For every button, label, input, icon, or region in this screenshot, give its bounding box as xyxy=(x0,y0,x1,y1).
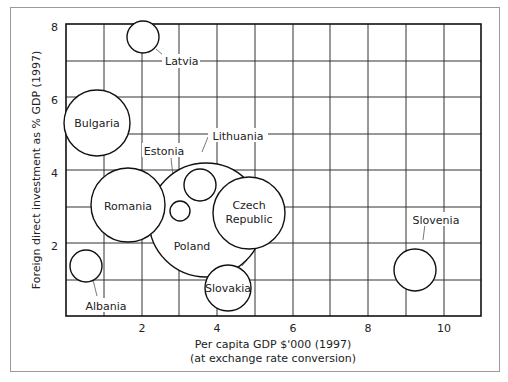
label-czech-line2: Republic xyxy=(225,213,272,226)
label-slovakia: Slovakia xyxy=(205,282,251,295)
x-axis-title: Per capita GDP $'000 (1997) xyxy=(195,338,352,351)
label-lithuania: Lithuania xyxy=(213,130,264,143)
label-latvia: Latvia xyxy=(165,55,199,68)
x-axis-subtitle: (at exchange rate conversion) xyxy=(190,352,356,365)
label-romania: Romania xyxy=(104,200,152,213)
label-slovenia: Slovenia xyxy=(413,214,460,227)
label-czech-line1: Czech xyxy=(232,199,265,212)
y-tick: 6 xyxy=(51,94,58,107)
label-estonia: Estonia xyxy=(144,145,185,158)
x-tick-labels: 2 4 6 8 10 xyxy=(139,322,452,335)
y-tick: 8 xyxy=(51,21,58,34)
bubble-estonia xyxy=(170,201,190,221)
x-tick: 10 xyxy=(437,322,451,335)
label-albania: Albania xyxy=(85,300,126,313)
bubble-slovenia xyxy=(394,249,436,291)
x-tick: 6 xyxy=(290,322,297,335)
label-bulgaria: Bulgaria xyxy=(74,117,120,130)
y-tick: 4 xyxy=(51,167,58,180)
x-tick: 4 xyxy=(214,322,221,335)
bubbles xyxy=(64,21,436,311)
bubble-chart: 2 4 6 8 10 2 4 6 8 Per capita GDP $'000 … xyxy=(0,0,508,382)
y-axis-title: Foreign direct investment as % GDP (1997… xyxy=(30,51,43,289)
y-tick: 2 xyxy=(51,240,58,253)
label-poland: Poland xyxy=(174,240,211,253)
x-tick: 8 xyxy=(365,322,372,335)
y-tick-labels: 2 4 6 8 xyxy=(51,21,58,253)
bubble-lithuania xyxy=(184,169,216,201)
bubble-latvia xyxy=(127,21,159,53)
x-tick: 2 xyxy=(139,322,146,335)
bubble-albania xyxy=(70,250,102,282)
